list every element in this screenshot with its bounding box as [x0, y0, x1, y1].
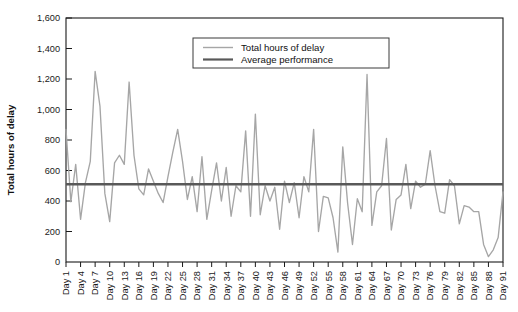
- x-tick-label: Day 73: [411, 271, 421, 300]
- x-tick-label: Day 43: [265, 271, 275, 300]
- x-tick-label: Day 85: [469, 271, 479, 300]
- y-tick-label: 200: [45, 227, 60, 237]
- x-tick-label: Day 16: [134, 271, 144, 300]
- x-tick-label: Day 82: [455, 271, 465, 300]
- x-tick-label: Day 88: [484, 271, 494, 300]
- x-tick-label: Day 64: [367, 271, 377, 300]
- y-tick-label: 1,400: [37, 44, 60, 54]
- legend-label-average-performance: Average performance: [241, 54, 333, 65]
- x-tick-label: Day 76: [425, 271, 435, 300]
- x-tick-label: Day 79: [440, 271, 450, 300]
- x-tick-label: Day 70: [396, 271, 406, 300]
- x-tick-label: Day 52: [309, 271, 319, 300]
- y-tick-label: 400: [45, 196, 60, 206]
- x-tick-label: Day 49: [294, 271, 304, 300]
- x-tick-label: Day 19: [149, 271, 159, 300]
- x-tick-label: Day 28: [192, 271, 202, 300]
- x-tick-label: Day 58: [338, 271, 348, 300]
- x-tick-label: Day 37: [236, 271, 246, 300]
- x-tick-label: Day 34: [222, 271, 232, 300]
- x-tick-label: Day 61: [353, 271, 363, 300]
- y-tick-label: 1,000: [37, 105, 60, 115]
- x-tick-label: Day 31: [207, 271, 217, 300]
- x-tick-label: Day 67: [382, 271, 392, 300]
- x-tick-label: Day 46: [280, 271, 290, 300]
- x-tick-label: Day 7: [90, 271, 100, 295]
- x-tick-label: Day 91: [498, 271, 508, 300]
- x-tick-label: Day 22: [163, 271, 173, 300]
- y-tick-label: 1,600: [37, 13, 60, 23]
- y-tick-label: 1,200: [37, 74, 60, 84]
- x-tick-label: Day 55: [324, 271, 334, 300]
- x-tick-label: Day 25: [178, 271, 188, 300]
- x-tick-label: Day 13: [120, 271, 130, 300]
- x-tick-label: Day 10: [105, 271, 115, 300]
- x-tick-label: Day 40: [251, 271, 261, 300]
- y-axis-title: Total hours of delay: [5, 104, 16, 195]
- x-axis-tick-labels: Day 1Day 4Day 7Day 10Day 13Day 16Day 19D…: [61, 271, 508, 300]
- y-tick-label: 600: [45, 166, 60, 176]
- y-tick-label: 0: [55, 257, 60, 267]
- chart-container: Total hours of delay 02004006008001,0001…: [0, 0, 518, 312]
- delay-line-chart: Total hours of delay 02004006008001,0001…: [0, 0, 518, 312]
- x-tick-label: Day 4: [76, 271, 86, 295]
- legend-label-total-hours: Total hours of delay: [241, 42, 324, 53]
- y-tick-label: 800: [45, 135, 60, 145]
- x-tick-label: Day 1: [61, 271, 71, 295]
- chart-legend: Total hours of delay Average performance: [193, 38, 389, 68]
